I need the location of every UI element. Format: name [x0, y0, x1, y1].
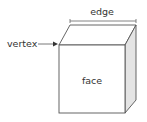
edge-bracket [70, 19, 136, 23]
face-label: face [82, 75, 102, 86]
edge-label: edge [90, 6, 114, 17]
vertex-label: vertex [7, 38, 38, 49]
cube-diagram: edge face vertex [0, 0, 147, 122]
cube-top-face [59, 25, 136, 45]
vertex-arrow [38, 42, 58, 47]
